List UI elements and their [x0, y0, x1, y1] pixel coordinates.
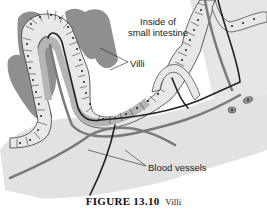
label-inside-line1: Inside of	[118, 16, 198, 27]
label-inside-line2: small intestine	[118, 27, 198, 38]
label-blood-vessels: Blood vessels	[148, 162, 207, 173]
figure-caption: FIGURE 13.10 Villi	[0, 195, 267, 207]
figure-number: FIGURE 13.10	[86, 195, 160, 207]
figure-title: Villi	[165, 197, 181, 207]
label-villi: Villi	[130, 58, 145, 69]
villi-diagram: Inside of small intestine Villi Blood ve…	[0, 0, 267, 214]
label-inside-small-intestine: Inside of small intestine	[118, 16, 198, 38]
